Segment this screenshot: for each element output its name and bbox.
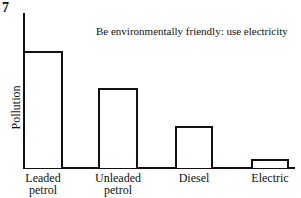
bar-leaded-petrol xyxy=(23,51,63,168)
x-label-leaded-petrol: Leaded petrol xyxy=(13,172,73,196)
x-label-line: petrol xyxy=(88,184,148,196)
x-label-line: Electric xyxy=(240,172,300,184)
x-label-unleaded-petrol: Unleaded petrol xyxy=(88,172,148,196)
x-label-electric: Electric xyxy=(240,172,300,184)
bar-unleaded-petrol xyxy=(98,88,138,168)
x-label-line: Diesel xyxy=(164,172,224,184)
x-label-line: petrol xyxy=(13,184,73,196)
bar-diesel xyxy=(175,126,213,168)
y-axis-label: Pollution xyxy=(9,78,24,138)
figure-number: 7 xyxy=(2,0,9,16)
chart-annotation: Be environmentally friendly: use electri… xyxy=(96,25,288,37)
x-label-diesel: Diesel xyxy=(164,172,224,184)
bar-electric xyxy=(251,159,289,168)
